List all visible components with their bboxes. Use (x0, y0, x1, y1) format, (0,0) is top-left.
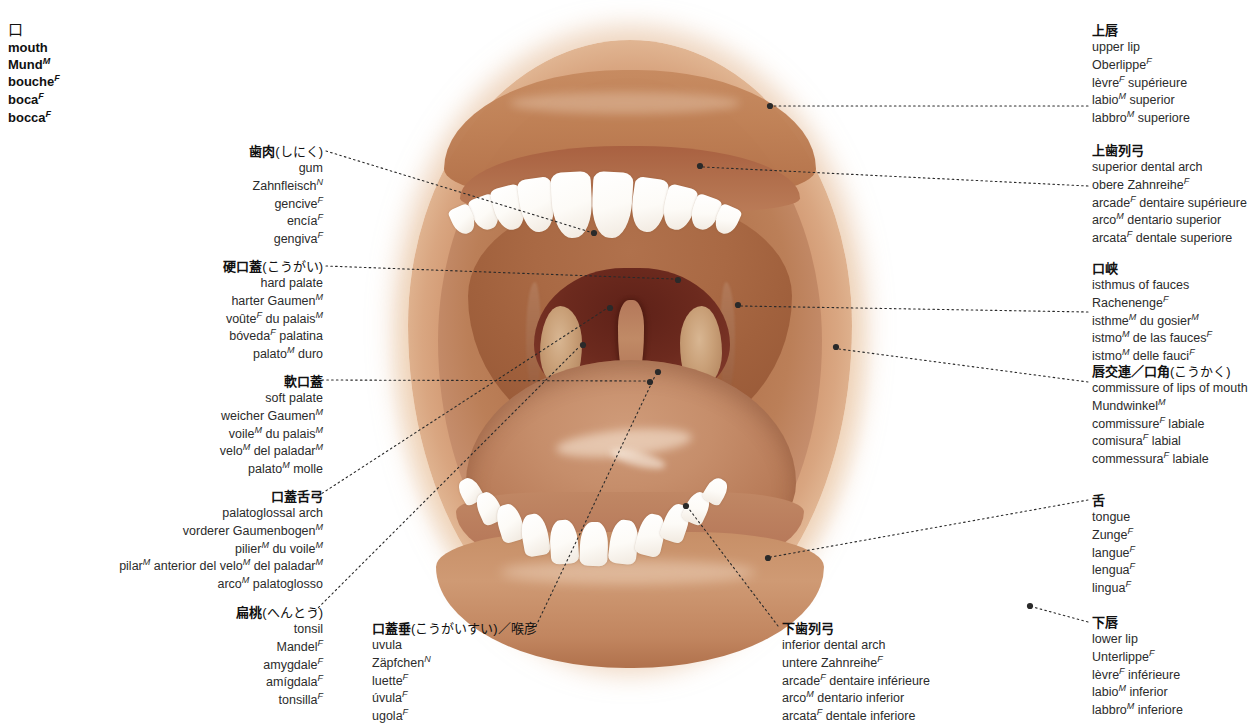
label-gum-heading: 歯肉(しにく) (249, 143, 323, 160)
label-soft-palate-term-4: palatoM molle (220, 460, 323, 478)
label-gum-term-3: encíaF (249, 212, 323, 230)
label-hard-palate-term-4: palatoM duro (223, 345, 323, 363)
label-tonsil-term-4: tonsillaF (236, 691, 323, 709)
label-uvula-term-0: uvula (372, 637, 537, 654)
label-superior-dental-arch-heading: 上歯列弓 (1092, 142, 1247, 159)
label-tongue-term-1: ZungeF (1092, 526, 1135, 544)
label-hard-palate-term-3: bóvedaF palatina (223, 327, 323, 345)
label-uvula-term-3: úvulaF (372, 689, 537, 707)
title-term-4: boccaF (8, 109, 60, 127)
label-palatoglossal-arch-term-2: pilierM du voileM (119, 540, 323, 558)
label-lower-lip-term-4: labbroM inferiore (1092, 701, 1183, 719)
label-inferior-dental-arch-term-0: inferior dental arch (782, 637, 930, 654)
label-hard-palate-term-0: hard palate (223, 275, 323, 292)
leader-line-lower-lip (1033, 607, 1088, 622)
label-soft-palate-term-1: weicher GaumenM (220, 407, 323, 425)
label-commissure-of-lips-term-1: MundwinkelM (1092, 397, 1248, 415)
label-gum-term-1: ZahnfleischN (249, 177, 323, 195)
title-term-0: mouth (8, 39, 60, 56)
label-inferior-dental-arch-term-2: arcadeF dentaire inférieure (782, 672, 930, 690)
label-upper-lip-term-1: OberlippeF (1092, 56, 1190, 74)
label-gum-term-2: genciveF (249, 195, 323, 213)
label-soft-palate-heading: 軟口蓋 (220, 373, 323, 390)
label-inferior-dental-arch: 下歯列弓inferior dental archuntere Zahnreihe… (782, 620, 930, 725)
label-lower-lip-term-2: lèvreF inférieure (1092, 666, 1183, 684)
label-gum: 歯肉(しにく)gumZahnfleischNgenciveFencíaFgeng… (249, 143, 323, 248)
label-tongue-term-2: langueF (1092, 544, 1135, 562)
label-palatoglossal-arch-term-1: vorderer GaumenbogenM (119, 522, 323, 540)
title-term-1: MundM (8, 56, 60, 74)
label-soft-palate: 軟口蓋soft palateweicher GaumenMvoileM du p… (220, 373, 323, 478)
label-isthmus-of-fauces-term-1: RachenengeF (1092, 294, 1212, 312)
label-commissure-of-lips-term-4: commessuraF labiale (1092, 450, 1248, 468)
label-tongue-heading: 舌 (1092, 492, 1135, 509)
label-uvula-term-2: luetteF (372, 672, 537, 690)
label-hard-palate-term-1: harter GaumenM (223, 292, 323, 310)
mouth-illustration (360, 0, 900, 726)
label-tongue: 舌tongueZungeFlangueFlenguaFlinguaF (1092, 492, 1135, 597)
label-upper-lip-term-4: labbroM superiore (1092, 109, 1190, 127)
label-lower-lip-term-1: UnterlippeF (1092, 648, 1183, 666)
label-tonsil: 扁桃(へんとう)tonsilMandelFamygdaleFamígdalaFt… (236, 604, 323, 709)
label-inferior-dental-arch-term-3: arcoM dentario inferior (782, 689, 930, 707)
label-isthmus-of-fauces: 口峡isthmus of faucesRachenengeFisthmeM du… (1092, 260, 1212, 365)
label-isthmus-of-fauces-term-0: isthmus of fauces (1092, 277, 1212, 294)
label-soft-palate-term-2: voileM du palaisM (220, 425, 323, 443)
label-uvula: 口蓋垂(こうがいすい)／喉彦uvulaZäpfchenNluetteFúvula… (372, 620, 537, 725)
label-tonsil-term-2: amygdaleF (236, 656, 323, 674)
label-uvula-heading: 口蓋垂(こうがいすい)／喉彦 (372, 620, 537, 637)
label-gum-term-4: gengivaF (249, 230, 323, 248)
title-kanji-glyph: 口 (8, 22, 60, 39)
label-superior-dental-arch-term-3: arcoM dentario superior (1092, 211, 1247, 229)
label-hard-palate-term-2: voûteF du palaisM (223, 310, 323, 328)
label-soft-palate-term-3: veloM del paladarM (220, 442, 323, 460)
label-inferior-dental-arch-term-4: arcataF dentale inferiore (782, 707, 930, 725)
upper-lip-highlight (510, 92, 740, 114)
title-block: 口 mouthMundMboucheFbocaFboccaF (8, 22, 60, 126)
label-palatoglossal-arch-term-0: palatoglossal arch (119, 505, 323, 522)
label-uvula-term-1: ZäpfchenN (372, 654, 537, 672)
label-palatoglossal-arch-term-4: arcoM palatoglosso (119, 575, 323, 593)
label-tonsil-term-1: MandelF (236, 638, 323, 656)
label-upper-lip: 上唇upper lipOberlippeFlèvreF supérieurela… (1092, 22, 1190, 127)
label-hard-palate: 硬口蓋(こうがい)hard palateharter GaumenMvoûteF… (223, 258, 323, 363)
label-soft-palate-term-0: soft palate (220, 390, 323, 407)
title-term-3: bocaF (8, 91, 60, 109)
label-commissure-of-lips: 唇交連／口角(こうかく)commissure of lips of mouthM… (1092, 363, 1248, 468)
label-lower-lip-term-0: lower lip (1092, 631, 1183, 648)
title-term-2: boucheF (8, 73, 60, 91)
label-inferior-dental-arch-heading: 下歯列弓 (782, 620, 930, 637)
label-palatoglossal-arch: 口蓋舌弓palatoglossal archvorderer Gaumenbog… (119, 488, 323, 593)
label-superior-dental-arch: 上歯列弓superior dental archobere ZahnreiheF… (1092, 142, 1247, 247)
label-isthmus-of-fauces-term-3: istmoM de las faucesF (1092, 329, 1212, 347)
label-superior-dental-arch-term-1: obere ZahnreiheF (1092, 176, 1247, 194)
anchor-dot-lower-lip (1027, 603, 1033, 609)
label-lower-lip-heading: 下唇 (1092, 614, 1183, 631)
label-lower-lip-term-3: labioM inferior (1092, 683, 1183, 701)
label-tonsil-heading: 扁桃(へんとう) (236, 604, 323, 621)
label-superior-dental-arch-term-4: arcataF dentale superiore (1092, 229, 1247, 247)
label-superior-dental-arch-term-2: arcadeF dentaire supérieure (1092, 194, 1247, 212)
label-palatoglossal-arch-heading: 口蓋舌弓 (119, 488, 323, 505)
label-commissure-of-lips-term-3: comisuraF labial (1092, 432, 1248, 450)
lower-tooth-5 (579, 522, 609, 567)
label-lower-lip: 下唇lower lipUnterlippeFlèvreF inférieurel… (1092, 614, 1183, 719)
label-hard-palate-heading: 硬口蓋(こうがい) (223, 258, 323, 275)
label-tongue-term-4: linguaF (1092, 579, 1135, 597)
label-commissure-of-lips-term-2: commissureF labiale (1092, 415, 1248, 433)
label-uvula-term-4: ugolaF (372, 707, 537, 725)
label-superior-dental-arch-term-0: superior dental arch (1092, 159, 1247, 176)
label-upper-lip-term-2: lèvreF supérieure (1092, 74, 1190, 92)
title-term-list: mouthMundMboucheFbocaFboccaF (8, 39, 60, 127)
label-upper-lip-term-0: upper lip (1092, 39, 1190, 56)
label-isthmus-of-fauces-term-2: isthmeM du gosierM (1092, 312, 1212, 330)
diagram-canvas: 口 mouthMundMboucheFbocaFboccaF 歯肉(しにく)gu… (0, 0, 1254, 726)
label-commissure-of-lips-heading: 唇交連／口角(こうかく) (1092, 363, 1248, 380)
label-inferior-dental-arch-term-1: untere ZahnreiheF (782, 654, 930, 672)
label-isthmus-of-fauces-heading: 口峡 (1092, 260, 1212, 277)
label-palatoglossal-arch-term-3: pilarM anterior del veloM del paladarM (119, 557, 323, 575)
label-tongue-term-0: tongue (1092, 509, 1135, 526)
label-tonsil-term-0: tonsil (236, 621, 323, 638)
label-commissure-of-lips-term-0: commissure of lips of mouth (1092, 380, 1248, 397)
label-tonsil-term-3: amígdalaF (236, 673, 323, 691)
